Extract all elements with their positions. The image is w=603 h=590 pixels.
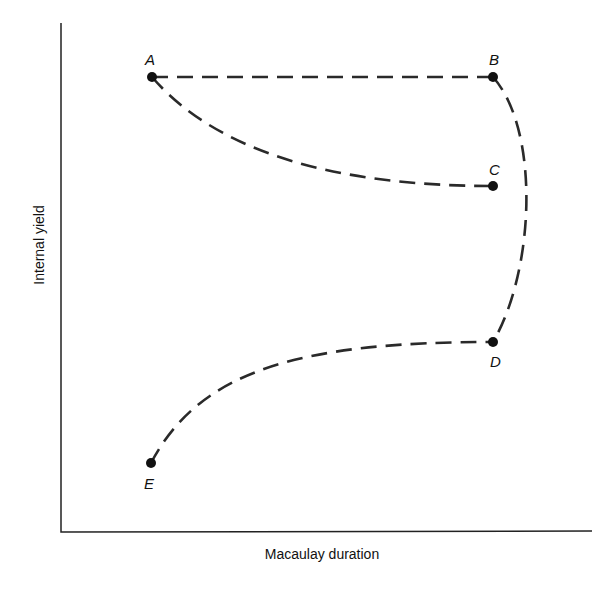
axes	[61, 23, 592, 532]
label-b: B	[489, 51, 499, 68]
label-d: D	[490, 353, 501, 370]
point-a	[147, 72, 157, 82]
curve-b-d	[493, 77, 526, 342]
yield-duration-diagram: A B C D E Macaulay duration Internal yie…	[0, 0, 603, 590]
label-e: E	[144, 475, 155, 492]
point-e	[146, 458, 156, 468]
point-b	[488, 72, 498, 82]
label-a: A	[144, 51, 155, 68]
label-c: C	[489, 161, 500, 178]
curve-e-d	[151, 342, 493, 463]
x-axis-label: Macaulay duration	[265, 546, 379, 562]
point-c	[488, 181, 498, 191]
point-d	[488, 337, 498, 347]
y-axis-label: Internal yield	[31, 205, 47, 284]
curve-a-c	[152, 77, 493, 186]
